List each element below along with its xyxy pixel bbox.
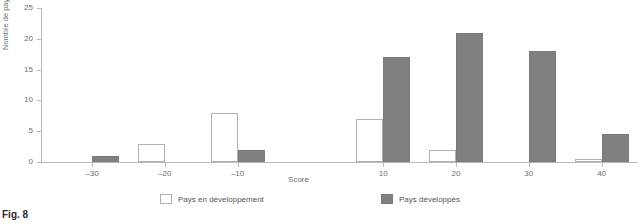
y-axis-line — [41, 8, 42, 163]
bar-developing — [211, 113, 238, 162]
y-tick-label: 15 — [0, 66, 33, 74]
x-axis-title: Score — [0, 176, 597, 184]
legend-swatch-developing-icon — [160, 194, 172, 204]
y-tick-mark — [37, 162, 41, 163]
y-tick-mark — [37, 131, 41, 132]
bar-developed — [383, 57, 410, 162]
chart-legend: Pays en développement Pays développés — [0, 193, 642, 207]
bar-developing — [356, 119, 383, 162]
bar-developing — [138, 144, 165, 162]
bar-developed — [238, 150, 265, 162]
figure-caption: Fig. 8 — [2, 209, 28, 220]
y-tick-label: 5 — [0, 127, 33, 135]
y-tick-mark — [37, 70, 41, 71]
legend-swatch-developed-icon — [381, 194, 393, 204]
y-tick-label: 0 — [0, 158, 33, 166]
figure: 2520151050 –30–20–1010203040 Nombre de p… — [0, 0, 642, 224]
x-tick-mark — [238, 163, 239, 167]
x-tick-mark — [383, 163, 384, 167]
bar-developing — [429, 150, 456, 162]
y-axis-title: Nombre de pays — [2, 0, 10, 50]
y-tick-label: 10 — [0, 96, 33, 104]
x-axis-line — [41, 162, 638, 163]
bar-developed — [456, 33, 483, 162]
bar-developed — [92, 156, 119, 162]
x-tick-mark — [529, 163, 530, 167]
x-tick-mark — [602, 163, 603, 167]
legend-label-developing: Pays en développement — [178, 195, 264, 204]
bar-developed — [602, 134, 629, 162]
y-tick-mark — [37, 8, 41, 9]
bar-developing — [575, 159, 602, 162]
legend-label-developed: Pays développés — [399, 195, 460, 204]
x-tick-mark — [92, 163, 93, 167]
y-tick-mark — [37, 100, 41, 101]
x-tick-mark — [165, 163, 166, 167]
bar-developed — [529, 51, 556, 162]
x-tick-mark — [456, 163, 457, 167]
plot-area: 2520151050 –30–20–1010203040 — [41, 8, 638, 163]
y-tick-mark — [37, 39, 41, 40]
